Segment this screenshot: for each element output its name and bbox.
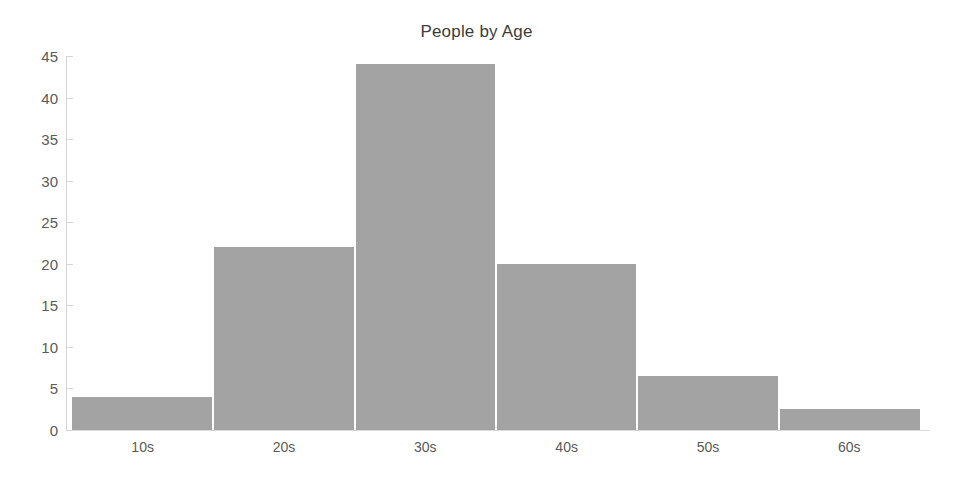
bar-30s[interactable] [355,64,496,430]
bars-layer [0,0,953,479]
bar-10s[interactable] [72,397,213,430]
x-axis-tick-label-60s: 60s [838,439,861,455]
y-axis-tick [67,222,73,223]
chart-container: People by Age 051015202530354045 10s20s3… [0,0,953,479]
y-axis-tick [67,264,73,265]
y-axis-tick [67,388,73,389]
y-axis-tick [67,56,73,57]
y-axis-tick [67,181,73,182]
x-axis-tick-label-10s: 10s [131,439,154,455]
y-axis-tick [67,347,73,348]
y-axis-tick [67,139,73,140]
x-axis-tick-label-20s: 20s [273,439,296,455]
y-axis-tick [67,305,73,306]
bar-50s[interactable] [637,376,778,430]
y-axis-tick [67,98,73,99]
x-axis-tick-label-40s: 40s [555,439,578,455]
x-axis-tick-label-50s: 50s [697,439,720,455]
bar-20s[interactable] [213,247,354,430]
bar-60s[interactable] [779,409,920,430]
x-axis-tick-label-30s: 30s [414,439,437,455]
y-axis-tick [67,430,73,431]
bar-40s[interactable] [496,264,637,430]
